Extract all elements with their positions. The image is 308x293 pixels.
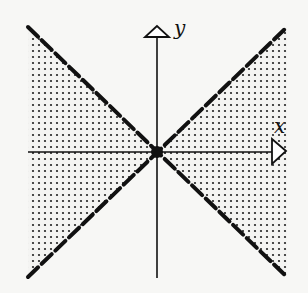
y-axis-label: y (174, 18, 185, 38)
origin-point (151, 146, 163, 158)
hyperbolic-region-diagram (0, 0, 308, 293)
x-axis-label: x (274, 116, 285, 136)
y-axis-arrow-icon (145, 26, 169, 37)
